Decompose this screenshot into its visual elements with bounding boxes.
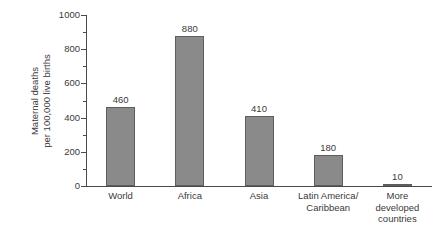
y-tick-major: [81, 83, 86, 84]
y-tick-minor: [83, 32, 86, 33]
y-tick-minor: [83, 135, 86, 136]
x-category-label: Moredevelopedcountries: [353, 190, 441, 225]
y-tick-label: 400: [52, 113, 80, 123]
y-axis-title-line-2: per 100,000 live births: [41, 11, 53, 191]
y-tick-minor: [83, 101, 86, 102]
bar: [175, 36, 204, 186]
x-axis-line: [86, 186, 432, 187]
bar-value-label: 880: [160, 24, 220, 34]
bar: [383, 184, 412, 186]
bar: [245, 116, 274, 186]
x-category-label-line: More: [353, 190, 441, 202]
bar-chart: Maternal deaths per 100,000 live births …: [0, 0, 441, 237]
y-tick-minor: [83, 66, 86, 67]
bar-value-label: 180: [298, 143, 358, 153]
bar-value-label: 460: [91, 95, 151, 105]
bar-value-label: 10: [367, 172, 427, 182]
y-tick-label: 200: [52, 147, 80, 157]
y-tick-major: [81, 49, 86, 50]
y-axis-line: [86, 15, 87, 187]
x-category-label-line: countries: [353, 213, 441, 225]
y-tick-minor: [83, 169, 86, 170]
y-tick-label: 600: [52, 78, 80, 88]
bar-value-label: 410: [229, 104, 289, 114]
bar: [314, 155, 343, 186]
y-axis-title-line-1: Maternal deaths: [29, 11, 41, 191]
y-tick-major: [81, 186, 86, 187]
y-tick-major: [81, 152, 86, 153]
y-tick-major: [81, 118, 86, 119]
y-tick-label: 800: [52, 44, 80, 54]
bar: [106, 107, 135, 186]
y-tick-label: 1000: [52, 10, 80, 20]
x-category-label-line: developed: [353, 202, 441, 214]
y-axis-title: Maternal deaths per 100,000 live births: [29, 11, 63, 191]
y-tick-major: [81, 15, 86, 16]
